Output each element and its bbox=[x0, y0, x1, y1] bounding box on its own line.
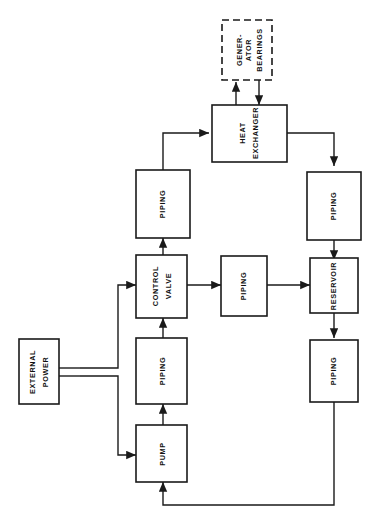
flow-canvas: GENER- ATOR BEARINGS HEAT EXCHANGER PIPI… bbox=[0, 0, 373, 523]
node-pump[interactable]: PUMP bbox=[136, 425, 187, 482]
heat-exchanger-box bbox=[212, 105, 287, 162]
node-reservoir[interactable]: RESERVOIR bbox=[310, 258, 358, 313]
node-external-power[interactable]: EXTERNAL POWER bbox=[19, 339, 59, 404]
control-valve-box bbox=[136, 255, 187, 318]
connection-hx-to-pipingUR bbox=[287, 133, 334, 166]
connection-power-to-pump bbox=[80, 376, 136, 455]
node-piping-upper-left[interactable]: PIPING bbox=[136, 170, 190, 238]
piping-upper-right-label: PIPING bbox=[329, 192, 338, 220]
piping-lower-left-label: PIPING bbox=[158, 357, 167, 385]
process-flow-diagram: GENER- ATOR BEARINGS HEAT EXCHANGER PIPI… bbox=[0, 0, 373, 523]
external-power-label-line2: POWER bbox=[41, 357, 50, 388]
node-generator-bearings[interactable]: GENER- ATOR BEARINGS bbox=[222, 20, 272, 80]
piping-lower-right-label: PIPING bbox=[329, 357, 338, 385]
reservoir-label: RESERVOIR bbox=[329, 262, 338, 310]
node-piping-lower-right[interactable]: PIPING bbox=[310, 340, 358, 402]
connection-power-to-valve bbox=[80, 285, 136, 368]
control-valve-label-line2: VALVE bbox=[164, 273, 173, 299]
node-piping-middle[interactable]: PIPING bbox=[221, 256, 267, 316]
node-piping-lower-left[interactable]: PIPING bbox=[136, 338, 187, 404]
heat-exchanger-label-line1: HEAT bbox=[238, 122, 247, 144]
node-piping-upper-right[interactable]: PIPING bbox=[307, 172, 361, 240]
node-heat-exchanger[interactable]: HEAT EXCHANGER bbox=[212, 105, 287, 162]
connection-pipingUL-to-hx bbox=[163, 133, 209, 170]
node-control-valve[interactable]: CONTROL VALVE bbox=[136, 255, 187, 318]
connection-pipingLR-to-pump bbox=[163, 402, 334, 505]
generator-bearings-label-line1: GENER- bbox=[235, 34, 244, 66]
generator-bearings-label-line2: ATOR bbox=[244, 39, 253, 62]
control-valve-label-line1: CONTROL bbox=[151, 266, 160, 306]
piping-middle-label: PIPING bbox=[239, 272, 248, 300]
external-power-box bbox=[19, 339, 59, 404]
piping-upper-left-label: PIPING bbox=[158, 190, 167, 218]
external-power-label-line1: EXTERNAL bbox=[28, 350, 37, 394]
generator-bearings-label-line3: BEARINGS bbox=[255, 28, 264, 71]
pump-label: PUMP bbox=[158, 442, 167, 465]
heat-exchanger-label-line2: EXCHANGER bbox=[251, 107, 260, 159]
connections-layer bbox=[80, 80, 334, 505]
